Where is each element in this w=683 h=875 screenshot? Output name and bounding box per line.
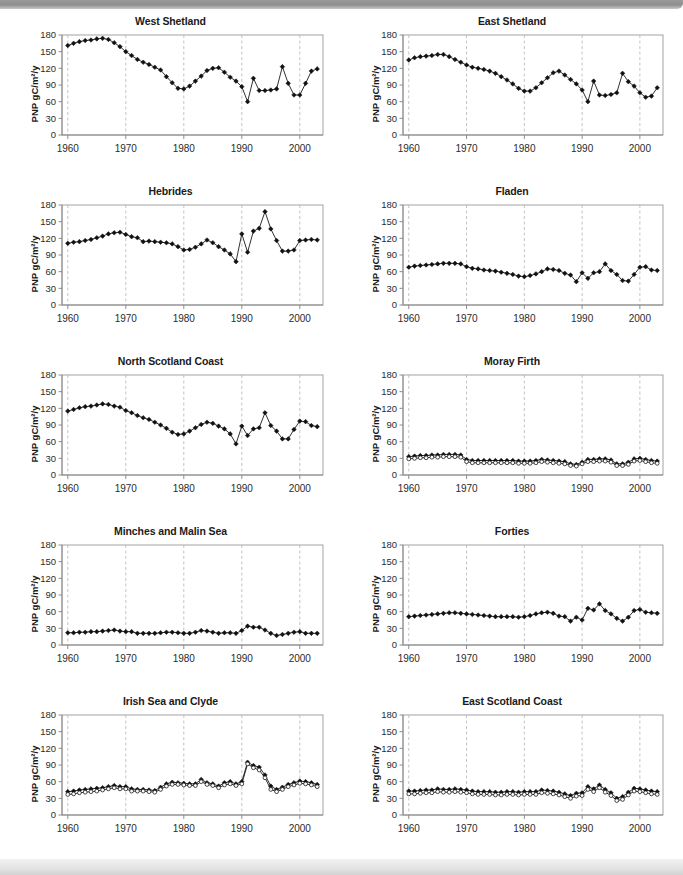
x-tick-label: 1990 <box>231 313 254 324</box>
y-tick-label: 60 <box>45 436 56 447</box>
x-tick-label: 1970 <box>455 653 478 664</box>
y-tick-label: 60 <box>386 96 397 107</box>
y-tick-label: 150 <box>381 726 397 737</box>
y-tick-label: 120 <box>381 573 397 584</box>
x-tick-label: 1990 <box>571 653 594 664</box>
y-tick-label: 120 <box>40 233 56 244</box>
x-tick-label: 1980 <box>173 143 196 154</box>
y-tick-label: 180 <box>381 369 397 380</box>
y-tick-label: 60 <box>45 776 56 787</box>
x-tick-label: 1970 <box>115 143 138 154</box>
x-tick-label: 2000 <box>629 143 652 154</box>
plot-area: 030609012015018019601970198019902000 <box>0 9 341 179</box>
x-tick-label: 1990 <box>571 313 594 324</box>
y-tick-label: 30 <box>386 453 397 464</box>
y-tick-label: 0 <box>51 299 56 310</box>
x-tick-label: 2000 <box>289 653 312 664</box>
y-tick-label: 180 <box>381 709 397 720</box>
chart-panel: Minches and Malin SeaPNP gC/m²/y03060901… <box>0 519 341 689</box>
x-tick-label: 1960 <box>398 823 421 834</box>
x-tick-label: 2000 <box>289 823 312 834</box>
x-tick-label: 1960 <box>57 143 80 154</box>
y-tick-label: 150 <box>40 46 56 57</box>
x-tick-label: 1960 <box>398 143 421 154</box>
x-tick-label: 1990 <box>231 653 254 664</box>
chart-grid: West ShetlandPNP gC/m²/y0306090120150180… <box>0 9 683 859</box>
y-tick-label: 60 <box>45 266 56 277</box>
x-tick-label: 1970 <box>115 653 138 664</box>
plot-area: 030609012015018019601970198019902000 <box>0 349 341 519</box>
chart-panel: East ShetlandPNP gC/m²/y0306090120150180… <box>341 9 683 179</box>
y-tick-label: 120 <box>40 403 56 414</box>
x-tick-label: 2000 <box>289 143 312 154</box>
y-tick-label: 120 <box>381 403 397 414</box>
y-tick-label: 150 <box>381 386 397 397</box>
x-tick-label: 1960 <box>57 483 80 494</box>
x-tick-label: 1970 <box>455 483 478 494</box>
chart-panel: Moray FirthPNP gC/m²/y030609012015018019… <box>341 349 683 519</box>
plot-area: 030609012015018019601970198019902000 <box>0 689 341 859</box>
plot-area: 030609012015018019601970198019902000 <box>341 349 683 519</box>
x-tick-label: 1980 <box>513 313 536 324</box>
bottom-decorative-bar <box>0 859 683 875</box>
plot-area: 030609012015018019601970198019902000 <box>341 689 683 859</box>
x-tick-label: 1960 <box>398 653 421 664</box>
chart-panel: East Scotland CoastPNP gC/m²/y0306090120… <box>341 689 683 859</box>
x-tick-label: 2000 <box>629 313 652 324</box>
y-tick-label: 0 <box>51 639 56 650</box>
y-tick-label: 180 <box>40 369 56 380</box>
y-tick-label: 90 <box>386 79 397 90</box>
x-tick-label: 1970 <box>115 823 138 834</box>
plot-area: 030609012015018019601970198019902000 <box>341 179 683 349</box>
x-tick-label: 2000 <box>629 823 652 834</box>
x-tick-label: 1980 <box>513 143 536 154</box>
y-tick-label: 180 <box>40 709 56 720</box>
x-tick-label: 1980 <box>173 313 196 324</box>
plot-area: 030609012015018019601970198019902000 <box>0 519 341 689</box>
y-tick-label: 60 <box>386 606 397 617</box>
y-tick-label: 30 <box>386 793 397 804</box>
y-tick-label: 30 <box>386 623 397 634</box>
y-tick-label: 0 <box>392 639 397 650</box>
y-tick-label: 180 <box>381 199 397 210</box>
x-tick-label: 2000 <box>289 313 312 324</box>
x-tick-label: 1960 <box>398 313 421 324</box>
x-tick-label: 2000 <box>629 653 652 664</box>
y-tick-label: 90 <box>45 589 56 600</box>
y-tick-label: 60 <box>45 606 56 617</box>
y-tick-label: 30 <box>386 283 397 294</box>
x-tick-label: 1990 <box>231 483 254 494</box>
y-tick-label: 0 <box>51 809 56 820</box>
y-tick-label: 180 <box>40 29 56 40</box>
x-tick-label: 1980 <box>173 483 196 494</box>
y-tick-label: 150 <box>40 216 56 227</box>
y-tick-label: 120 <box>40 63 56 74</box>
y-tick-label: 150 <box>40 726 56 737</box>
chart-panel: West ShetlandPNP gC/m²/y0306090120150180… <box>0 9 341 179</box>
y-tick-label: 0 <box>392 129 397 140</box>
x-tick-label: 1960 <box>57 823 80 834</box>
y-tick-label: 150 <box>40 386 56 397</box>
y-tick-label: 120 <box>40 743 56 754</box>
y-tick-label: 60 <box>386 436 397 447</box>
x-tick-label: 1970 <box>455 313 478 324</box>
y-tick-label: 180 <box>40 539 56 550</box>
x-tick-label: 1990 <box>571 823 594 834</box>
chart-panel: HebridesPNP gC/m²/y030609012015018019601… <box>0 179 341 349</box>
x-tick-label: 1990 <box>571 483 594 494</box>
y-tick-label: 90 <box>386 589 397 600</box>
top-decorative-bar <box>0 0 683 9</box>
x-tick-label: 2000 <box>289 483 312 494</box>
x-tick-label: 1980 <box>173 823 196 834</box>
y-tick-label: 30 <box>45 283 56 294</box>
y-tick-label: 150 <box>381 216 397 227</box>
y-tick-label: 90 <box>45 419 56 430</box>
y-tick-label: 30 <box>45 453 56 464</box>
y-tick-label: 90 <box>386 249 397 260</box>
y-tick-label: 60 <box>45 96 56 107</box>
y-tick-label: 30 <box>45 793 56 804</box>
chart-panel: FladenPNP gC/m²/y03060901201501801960197… <box>341 179 683 349</box>
y-tick-label: 120 <box>40 573 56 584</box>
y-tick-label: 90 <box>45 79 56 90</box>
y-tick-label: 0 <box>392 469 397 480</box>
